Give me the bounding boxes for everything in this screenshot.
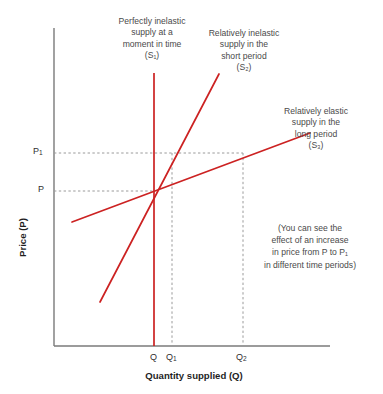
y-tick-p-base: P bbox=[38, 184, 44, 194]
annotation-s2: Relatively inelastic supply in the short… bbox=[196, 28, 292, 74]
annotation-s1: Perfectly inelastic supply at a moment i… bbox=[104, 16, 200, 62]
y-tick-p1-subscript: 1 bbox=[39, 149, 43, 156]
x-tick-q2-subscript: 2 bbox=[243, 355, 247, 362]
annotation-s3: Relatively elastic supply in the long pe… bbox=[268, 106, 364, 152]
x-tick-q2-base: Q bbox=[236, 352, 243, 362]
supply-curve-s2 bbox=[100, 74, 219, 302]
x-tick-label-q2: Q2 bbox=[236, 352, 247, 362]
supply-elasticity-figure: Perfectly inelastic supply at a moment i… bbox=[0, 0, 383, 394]
x-tick-q1-base: Q bbox=[166, 352, 173, 362]
annotation-price-increase-note: (You can see the effect of an increase i… bbox=[246, 222, 374, 271]
y-tick-label-p: P bbox=[38, 184, 44, 194]
y-tick-label-p1: P1 bbox=[33, 146, 43, 156]
clipped-caption-remnant bbox=[38, 388, 358, 394]
x-tick-q-base: Q bbox=[150, 352, 157, 362]
x-tick-label-q1: Q1 bbox=[166, 352, 177, 362]
x-tick-label-q: Q bbox=[150, 352, 157, 362]
y-axis-title: Price (P) bbox=[17, 195, 28, 281]
x-axis-title: Quantity supplied (Q) bbox=[94, 370, 294, 381]
x-tick-q1-subscript: 1 bbox=[173, 355, 177, 362]
